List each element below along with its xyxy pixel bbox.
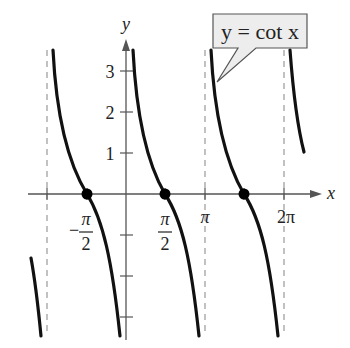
cotangent-graph: y = cot x y x 3 2 1 − π 2 π 2 π 2π [0,0,350,348]
x-tick-2pi: 2π [277,207,295,227]
x-tick-neg-pi-half: − π 2 [69,209,93,254]
zero-point-pi-half [160,189,171,200]
x-axis-arrow-icon [310,190,322,198]
zero-point-neg-pi-half [82,189,93,200]
zero-point-3pi-half [239,189,250,200]
svg-text:2: 2 [82,234,91,254]
y-tick-2: 2 [106,103,115,123]
x-tick-pi: π [200,207,210,227]
svg-text:−: − [69,220,79,240]
curve-branch-5 [290,50,304,152]
y-tick-3: 3 [106,62,115,82]
x-axis-label: x [326,183,335,203]
svg-text:2: 2 [161,234,170,254]
y-axis-label: y [120,14,130,34]
x-axis [28,188,322,200]
y-tick-1: 1 [106,144,115,164]
function-label: y = cot x [221,19,299,44]
curve-branch-1 [31,258,41,336]
x-tick-pi-half: π 2 [158,209,172,254]
y-axis [120,39,133,340]
svg-text:π: π [160,209,170,229]
svg-text:π: π [81,209,91,229]
y-axis-arrow-icon [122,39,130,51]
